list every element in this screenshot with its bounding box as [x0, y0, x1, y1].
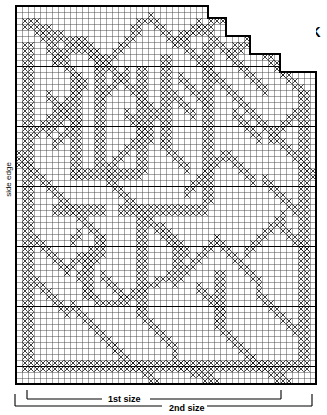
bracket-1st-size: [27, 390, 281, 399]
bracket-2nd-size: [15, 394, 312, 406]
size-label-1st: 1st size: [106, 394, 143, 404]
size-brackets: [0, 388, 327, 415]
chart-page: side edge BACK 1st size 2nd size: [0, 0, 327, 415]
pattern-chart: [14, 4, 318, 389]
size-label-2nd: 2nd size: [167, 403, 207, 413]
pattern-grid-svg: [14, 4, 318, 389]
side-edge-label: side edge: [4, 150, 13, 210]
